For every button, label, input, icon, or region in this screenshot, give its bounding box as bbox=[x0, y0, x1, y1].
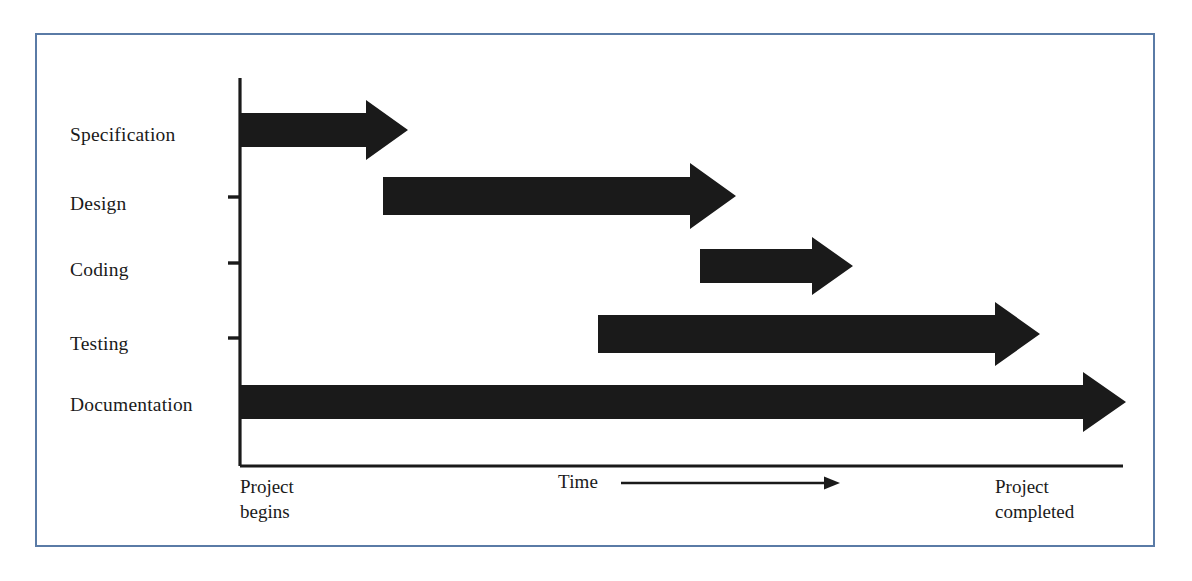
project-completed-note: Project completed bbox=[995, 474, 1074, 524]
project-begins-line2: begins bbox=[240, 499, 294, 524]
project-begins-line1: Project bbox=[240, 474, 294, 499]
project-completed-line1: Project bbox=[995, 474, 1074, 499]
time-direction-arrow bbox=[621, 477, 840, 490]
phase-bar-coding bbox=[700, 237, 853, 295]
time-arrow-head bbox=[824, 477, 840, 490]
phase-label-coding: Coding bbox=[70, 259, 129, 281]
phase-bar-testing bbox=[598, 302, 1040, 366]
time-axis-label: Time bbox=[558, 471, 598, 493]
project-completed-line2: completed bbox=[995, 499, 1074, 524]
phase-label-design: Design bbox=[70, 193, 126, 215]
project-begins-note: Project begins bbox=[240, 474, 294, 524]
phase-bar-specification bbox=[240, 100, 408, 160]
phase-label-testing: Testing bbox=[70, 333, 129, 355]
phase-label-documentation: Documentation bbox=[70, 394, 193, 416]
phase-bars bbox=[240, 100, 1126, 432]
phase-bar-design bbox=[383, 163, 736, 229]
figure-root: SpecificationDesignCodingTestingDocument… bbox=[0, 0, 1192, 581]
phase-bar-documentation bbox=[240, 372, 1126, 432]
phase-label-specification: Specification bbox=[70, 124, 175, 146]
